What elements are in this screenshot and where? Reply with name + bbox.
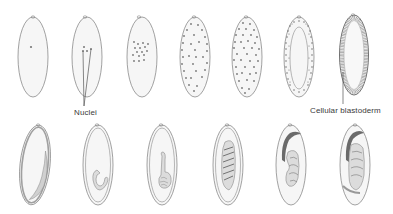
embryo-stage-2 [72, 16, 102, 97]
embryo-stage-9 [83, 124, 113, 205]
embryo-stage-12 [276, 124, 306, 205]
embryo-stage-1 [18, 16, 48, 97]
nuclei-label: Nuclei [74, 108, 97, 117]
cellular-blastoderm-label: Cellular blastoderm [310, 106, 381, 115]
embryo-stage-4 [180, 16, 210, 97]
embryo-stage-5 [232, 16, 262, 97]
embryo-stage-6 [284, 16, 314, 97]
embryo-stage-13 [340, 124, 370, 205]
embryo-development-diagram: .egg { fill: #f6f6f6; stroke: #8a8a8a; s… [0, 0, 393, 214]
embryo-stage-10 [147, 124, 177, 205]
embryo-stage-3 [127, 16, 157, 97]
embryo-stage-8 [16, 122, 54, 206]
embryo-stage-7 [340, 14, 369, 95]
embryo-stage-11 [213, 124, 243, 205]
